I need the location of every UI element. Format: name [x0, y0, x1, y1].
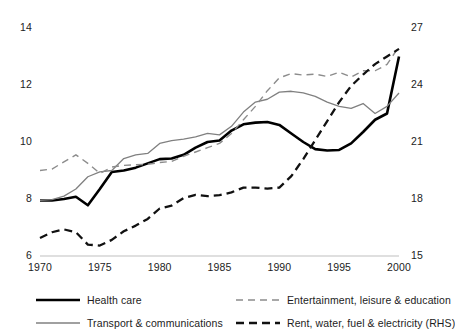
legend-item-transport-communications: Transport & communications: [36, 315, 223, 331]
y-left-tick-10: 10: [6, 135, 32, 147]
legend-swatch-entertainment-leisure-education: [236, 294, 280, 306]
legend-swatch-health-care: [36, 294, 80, 306]
legend-swatch-rent-water-fuel-electricity: [236, 317, 280, 329]
x-tick-1990: 1990: [259, 261, 299, 273]
y-right-tick-18: 18: [411, 192, 437, 204]
legend-label-health-care: Health care: [87, 294, 142, 306]
legend-item-health-care: Health care: [36, 292, 142, 308]
y-right-tick-21: 21: [411, 135, 437, 147]
y-left-tick-12: 12: [6, 78, 32, 90]
series-line-0: [40, 57, 399, 206]
chart-legend: Health care Transport & communications E…: [0, 289, 444, 336]
y-left-tick-6: 6: [6, 249, 32, 261]
legend-label-rent-water-fuel-electricity: Rent, water, fuel & electricity (RHS): [287, 317, 455, 329]
y-left-tick-8: 8: [6, 192, 32, 204]
series-line-2: [40, 47, 399, 174]
legend-swatch-transport-communications: [36, 317, 80, 329]
y-right-tick-24: 24: [411, 78, 437, 90]
y-right-tick-27: 27: [411, 21, 437, 33]
x-tick-1995: 1995: [319, 261, 359, 273]
y-left-tick-14: 14: [6, 21, 32, 33]
legend-label-entertainment-leisure-education: Entertainment, leisure & education: [287, 294, 451, 306]
x-tick-1980: 1980: [140, 261, 180, 273]
series-paths: [40, 47, 399, 246]
y-right-tick-15: 15: [411, 249, 437, 261]
legend-item-entertainment-leisure-education: Entertainment, leisure & education: [236, 292, 451, 308]
legend-label-transport-communications: Transport & communications: [87, 317, 223, 329]
x-tick-1970: 1970: [20, 261, 60, 273]
legend-item-rent-water-fuel-electricity: Rent, water, fuel & electricity (RHS): [236, 315, 455, 331]
x-tick-1975: 1975: [80, 261, 120, 273]
x-tick-2000: 2000: [379, 261, 419, 273]
x-tick-1985: 1985: [200, 261, 240, 273]
